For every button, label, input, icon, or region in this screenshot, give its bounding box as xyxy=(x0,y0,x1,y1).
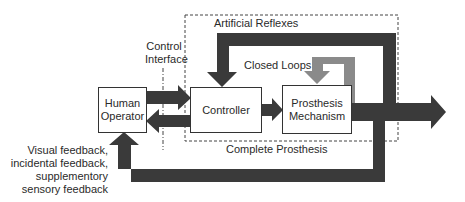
controller-block: Controller xyxy=(190,87,262,133)
feedback-line-1: Visual feedback, xyxy=(0,144,108,157)
control-interface-line-1: Control xyxy=(145,40,183,53)
closed-loops-label: Closed Loops xyxy=(244,59,311,72)
human-operator-label-2: Operator xyxy=(101,110,144,123)
human-operator-block: Human Operator xyxy=(98,87,147,133)
control-interface-line-2: Interface xyxy=(145,53,183,66)
command-arrow xyxy=(146,85,191,110)
feedback-line-3: supplementory xyxy=(0,170,108,183)
controller-label: Controller xyxy=(202,104,250,117)
prosthesis-label-2: Mechanism xyxy=(289,110,345,123)
prosthesis-mechanism-block: Prosthesis Mechanism xyxy=(282,85,352,134)
human-operator-label-1: Human xyxy=(101,97,144,110)
prosthesis-label-1: Prosthesis xyxy=(289,97,345,110)
control-interface-label: Control Interface xyxy=(145,40,183,66)
return-arrow xyxy=(146,109,190,133)
controller-to-mechanism-arrow xyxy=(262,98,283,121)
complete-prosthesis-label: Complete Prosthesis xyxy=(226,143,328,156)
artificial-reflexes-label: Artificial Reflexes xyxy=(214,17,298,30)
feedback-label: Visual feedback, incidental feedback, su… xyxy=(0,144,108,196)
feedback-line-2: incidental feedback, xyxy=(0,157,108,170)
feedback-line-4: sensory feedback xyxy=(0,183,108,196)
output-arrow xyxy=(352,95,446,129)
